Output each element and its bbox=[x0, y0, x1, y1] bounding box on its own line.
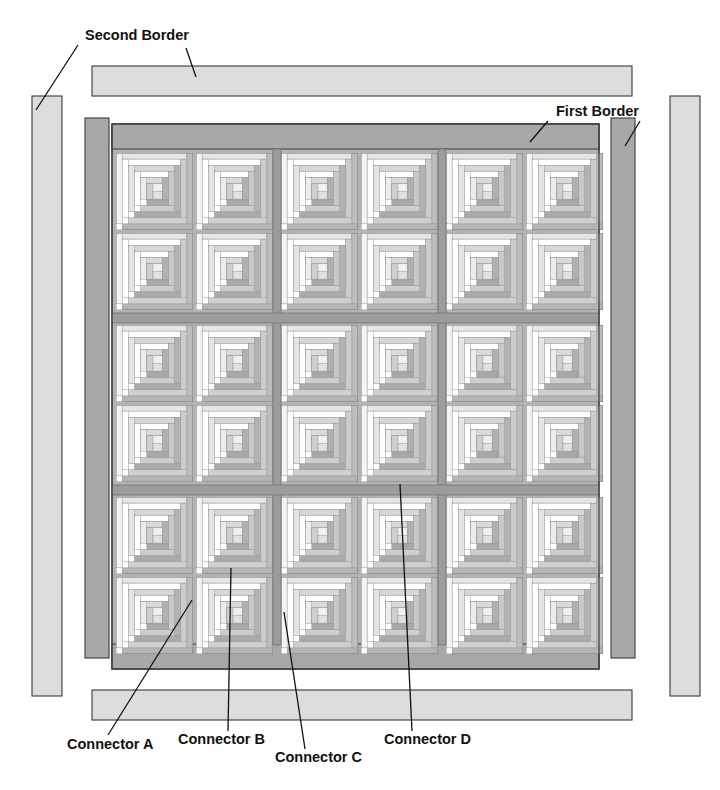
quilt-block bbox=[116, 577, 193, 654]
first-border-strip-left bbox=[85, 118, 109, 658]
quilt-block bbox=[526, 577, 603, 654]
connector-sash-h bbox=[112, 485, 599, 495]
quilt-block bbox=[196, 325, 273, 402]
quilt-block bbox=[526, 233, 603, 310]
quilt-block bbox=[526, 325, 603, 402]
label-connector-b: Connector B bbox=[178, 731, 265, 747]
quilt-block bbox=[526, 153, 603, 230]
first-border-strip-right bbox=[611, 118, 635, 658]
quilt-block bbox=[281, 497, 358, 574]
label-first-border: First Border bbox=[556, 103, 639, 119]
quilt-block bbox=[196, 405, 273, 482]
quilt-block bbox=[446, 405, 523, 482]
quilt-block bbox=[116, 233, 193, 310]
label-connector-c: Connector C bbox=[275, 749, 363, 765]
second-border-strip-right bbox=[670, 96, 700, 696]
quilt-block bbox=[446, 153, 523, 230]
quilt-assembly-diagram: Second Border First Border Connector A C… bbox=[0, 0, 720, 790]
quilt-block bbox=[446, 577, 523, 654]
quilt-block bbox=[526, 497, 603, 574]
quilt-block bbox=[361, 233, 438, 310]
quilt-block bbox=[196, 577, 273, 654]
quilt-block bbox=[361, 577, 438, 654]
quilt-block bbox=[361, 325, 438, 402]
connector-sash-h bbox=[112, 313, 599, 323]
quilt-block bbox=[196, 497, 273, 574]
second-border-strip-top bbox=[92, 66, 632, 96]
quilt-block bbox=[526, 405, 603, 482]
quilt-block bbox=[196, 153, 273, 230]
quilt-block bbox=[281, 233, 358, 310]
label-connector-a: Connector A bbox=[67, 736, 154, 752]
second-border-strip-left bbox=[32, 96, 62, 696]
second-border-strip-bottom bbox=[92, 690, 632, 720]
quilt-block bbox=[361, 405, 438, 482]
quilt-block bbox=[116, 497, 193, 574]
quilt-block bbox=[116, 153, 193, 230]
label-connector-d: Connector D bbox=[384, 731, 471, 747]
quilt-block bbox=[116, 405, 193, 482]
connector-sash-v bbox=[273, 149, 281, 645]
first-border-strip-top bbox=[112, 124, 599, 149]
quilt-center bbox=[112, 124, 603, 669]
quilt-block bbox=[116, 325, 193, 402]
quilt-block bbox=[281, 325, 358, 402]
quilt-block bbox=[196, 233, 273, 310]
quilt-block bbox=[446, 233, 523, 310]
quilt-block bbox=[281, 577, 358, 654]
quilt-block bbox=[281, 405, 358, 482]
connector-sash-v bbox=[438, 149, 446, 645]
quilt-block bbox=[446, 497, 523, 574]
quilt-block bbox=[281, 153, 358, 230]
label-second-border: Second Border bbox=[85, 27, 189, 43]
quilt-block bbox=[361, 153, 438, 230]
quilt-block bbox=[361, 497, 438, 574]
quilt-block bbox=[446, 325, 523, 402]
